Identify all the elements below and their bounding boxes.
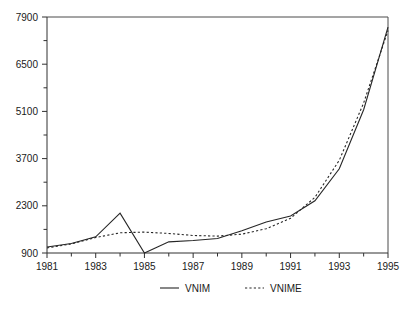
x-axis-tick-label: 1995: [377, 261, 400, 272]
x-axis-tick-label: 1993: [328, 261, 351, 272]
x-axis-tick-label: 1991: [279, 261, 302, 272]
line-chart: 90023003700510065007900 1981198319851987…: [0, 0, 413, 309]
x-axis-ticks: [47, 253, 388, 258]
x-axis-labels: 19811983198519871989199119931995: [36, 261, 400, 272]
y-axis-tick-label: 5100: [16, 106, 39, 117]
y-axis-labels: 90023003700510065007900: [16, 12, 39, 259]
y-axis-tick-label: 900: [21, 248, 38, 259]
series-line-vnim: [47, 27, 388, 253]
x-axis-tick-label: 1985: [133, 261, 156, 272]
x-axis-tick-label: 1983: [85, 261, 108, 272]
x-axis-tick-label: 1981: [36, 261, 59, 272]
chart-legend: VNIMVNIME: [160, 283, 302, 294]
x-axis-tick-label: 1987: [182, 261, 205, 272]
data-series-group: [47, 27, 388, 253]
legend-label-vnime: VNIME: [270, 283, 302, 294]
legend-label-vnim: VNIM: [185, 283, 210, 294]
y-axis-tick-label: 6500: [16, 59, 39, 70]
x-axis-tick-label: 1989: [231, 261, 254, 272]
y-axis-tick-label: 3700: [16, 153, 39, 164]
chart-figure: 90023003700510065007900 1981198319851987…: [0, 0, 413, 309]
y-axis-ticks: [42, 17, 47, 253]
y-axis-tick-label: 2300: [16, 200, 39, 211]
plot-frame: [47, 17, 388, 253]
series-line-vnime: [47, 30, 388, 247]
y-axis-tick-label: 7900: [16, 12, 39, 23]
